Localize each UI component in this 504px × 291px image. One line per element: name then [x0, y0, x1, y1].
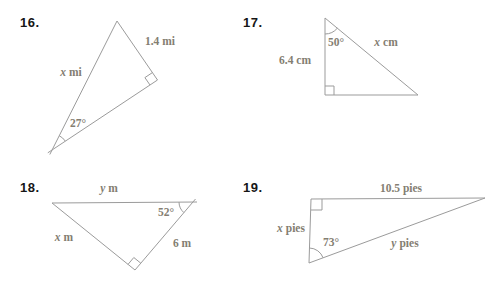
side-label: 10.5 pies [380, 182, 423, 195]
right-angle-marker [311, 199, 322, 210]
triangle-outline [325, 18, 418, 95]
triangle-side [50, 21, 117, 155]
variable: x [276, 222, 283, 234]
worksheet-canvas: 16. 1.4 mi xmi 27° 17. 50° xcm 6.4 cm [0, 0, 504, 291]
unit: m [108, 182, 118, 194]
angle-arc [179, 202, 184, 213]
problem-number: 19. [243, 180, 263, 195]
side-label: 6 m [173, 237, 192, 249]
side-label: xpies [276, 222, 305, 235]
triangle-side [48, 80, 158, 153]
side-label: 1.4 mi [145, 35, 176, 47]
variable: x [54, 231, 61, 243]
triangle-side [117, 21, 158, 80]
problem-16: 16. 1.4 mi xmi 27° [20, 15, 176, 155]
side-label: xm [54, 231, 74, 243]
side-label: ypies [389, 237, 419, 250]
right-angle-marker [128, 258, 141, 265]
unit: cm [383, 36, 398, 48]
angle-arc [325, 28, 337, 34]
side-label: 6.4 cm [279, 54, 311, 66]
side-label: ym [98, 182, 118, 195]
side-label: xmi [59, 66, 82, 78]
variable: x [59, 66, 66, 78]
unit: m [64, 231, 74, 243]
angle-label: 52° [158, 206, 175, 218]
angle-arc [59, 136, 65, 141]
variable: x [373, 36, 380, 48]
problem-number: 16. [20, 15, 40, 30]
worksheet-page: 16. 1.4 mi xmi 27° 17. 50° xcm 6.4 cm [0, 0, 504, 291]
right-angle-marker [325, 86, 334, 95]
problem-18: 18. ym 52° xm 6 m [20, 180, 197, 270]
problem-19: 19. 10.5 pies xpies 73° ypies [243, 180, 485, 263]
side-label: xcm [373, 36, 398, 48]
triangle-side [52, 202, 197, 203]
angle-label: 50° [328, 36, 345, 48]
angle-label: 73° [323, 236, 340, 248]
angle-arc [310, 248, 324, 258]
problem-17: 17. 50° xcm 6.4 cm [243, 15, 418, 95]
problem-number: 18. [20, 180, 40, 195]
right-angle-marker [145, 73, 153, 85]
unit: mi [69, 66, 83, 78]
variable: y [389, 237, 397, 250]
problem-number: 17. [243, 15, 263, 30]
unit: pies [286, 222, 306, 235]
triangle-outline [309, 198, 485, 263]
unit: pies [399, 237, 419, 250]
angle-label: 27° [70, 117, 87, 129]
variable: y [98, 182, 106, 195]
